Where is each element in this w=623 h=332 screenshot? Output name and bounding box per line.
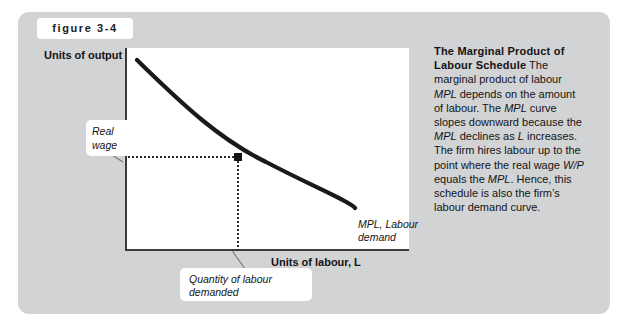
figure-root: figure 3-4 Units of output Units of labo… xyxy=(0,0,623,332)
equilibrium-point-marker xyxy=(234,153,242,161)
curve-label-line2: demand xyxy=(358,231,418,244)
caption-em-2: MPL xyxy=(504,102,527,114)
caption-em-5: W/P xyxy=(563,159,584,171)
caption-em-1: MPL xyxy=(434,88,457,100)
callout-real-wage-line2: wage xyxy=(92,138,126,152)
curve-label: MPL, Labour demand xyxy=(358,218,418,243)
caption-body-6: equals the xyxy=(434,173,488,185)
figure-number-tab: figure 3-4 xyxy=(37,18,133,39)
real-wage-guide-line xyxy=(127,156,238,158)
caption-body-4: declines as xyxy=(457,130,518,142)
quantity-guide-line xyxy=(237,160,239,250)
caption-em-3: MPL xyxy=(434,130,457,142)
caption-em-6: MPL xyxy=(488,173,511,185)
y-axis-label: Units of output xyxy=(44,49,122,61)
callout-quantity-line2: demanded xyxy=(189,286,306,299)
figure-caption: The Marginal Product of Labour Schedule … xyxy=(434,44,586,214)
figure-number-label: figure 3-4 xyxy=(37,18,133,39)
callout-real-wage: Real wage xyxy=(86,120,131,156)
x-axis-label: Units of labour, L xyxy=(271,256,361,268)
curve-label-line1: MPL, Labour xyxy=(358,218,418,231)
callout-quantity-line1: Quantity of labour xyxy=(189,273,306,286)
callout-real-wage-line1: Real xyxy=(92,124,126,138)
callout-quantity-demanded: Quantity of labour demanded xyxy=(180,268,312,301)
